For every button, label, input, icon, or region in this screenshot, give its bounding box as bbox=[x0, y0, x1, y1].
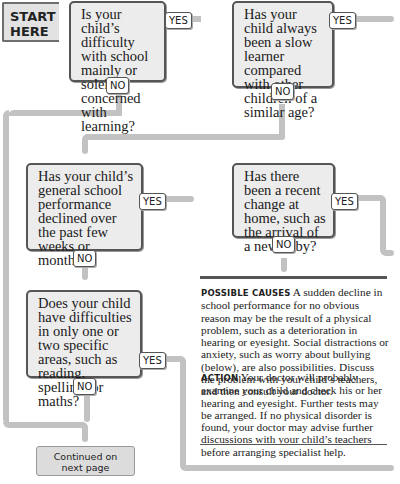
question-box-slow-learner: Has your child always been a slow learne… bbox=[232, 1, 334, 88]
question-box-learning: Is your child’s difficulty with school m… bbox=[69, 1, 166, 82]
connector-to-continued bbox=[82, 422, 88, 442]
continued-on-next-page-box[interactable]: Continued on next page bbox=[36, 446, 135, 476]
action-heading: Action bbox=[201, 373, 238, 383]
info-bottom-rule bbox=[200, 444, 387, 445]
yes-label: YES bbox=[331, 193, 358, 210]
connector-q2-no-horizontal bbox=[82, 134, 285, 140]
connector-bottom-left bbox=[3, 422, 88, 428]
connector-q5-yes-bottom bbox=[180, 465, 394, 471]
possible-causes-heading: Possible causes bbox=[201, 288, 291, 298]
yes-label: YES bbox=[139, 193, 166, 210]
connector-q5-yes-vertical bbox=[180, 356, 186, 471]
info-top-rule bbox=[200, 276, 387, 279]
connector-q4-no bbox=[281, 258, 287, 272]
no-label: NO bbox=[271, 83, 294, 100]
no-label: NO bbox=[73, 250, 96, 267]
yes-label: YES bbox=[329, 12, 356, 29]
question-box-change-at-home: Has there been a recent change at home, … bbox=[232, 163, 335, 238]
start-here-badge: START HERE bbox=[2, 2, 59, 42]
connector-to-q3 bbox=[82, 134, 88, 154]
continued-line1: Continued on bbox=[37, 451, 134, 462]
no-label: NO bbox=[73, 378, 96, 395]
connector-left-vertical bbox=[3, 110, 9, 425]
start-label-line2: HERE bbox=[10, 24, 59, 39]
action-paragraph: Action Your doctor will probably examine… bbox=[201, 371, 389, 458]
connector-q2-yes bbox=[356, 16, 394, 22]
flowchart: START HERE Is your child’s difficulty wi… bbox=[0, 0, 400, 484]
connector-q4-yes-vertical bbox=[380, 195, 386, 255]
question-box-specific-areas: Does your child have difficulties in onl… bbox=[26, 290, 142, 378]
yes-label: YES bbox=[165, 12, 192, 29]
start-label-line1: START bbox=[10, 9, 59, 24]
question-box-performance-declined: Has your child’s general school performa… bbox=[26, 163, 143, 251]
no-label: NO bbox=[272, 236, 295, 253]
connector-q4-yes-end bbox=[380, 250, 394, 256]
no-label: NO bbox=[106, 77, 129, 94]
connector-q3-yes bbox=[164, 196, 194, 202]
question-text: Has your child always been a slow learne… bbox=[244, 6, 317, 120]
yes-label: YES bbox=[139, 352, 166, 369]
connector-q5-no bbox=[84, 392, 90, 422]
continued-line2: next page bbox=[37, 462, 134, 473]
